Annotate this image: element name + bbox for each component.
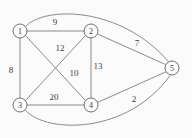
edge-1-5-arc-top [26, 14, 169, 62]
edge-weight-1-3: 8 [9, 65, 14, 75]
edge-weight-4-5: 2 [132, 94, 137, 104]
graph-diagram: 1 2 3 4 5 9 8 10 12 13 7 20 2 [0, 0, 192, 138]
edge-weight-3-4: 20 [50, 92, 60, 102]
edge-weight-2-3: 12 [56, 43, 65, 53]
node-label-3: 3 [18, 101, 22, 110]
node-label-1: 1 [18, 27, 22, 36]
graph-canvas: 1 2 3 4 5 9 8 10 12 13 7 20 2 [0, 0, 192, 138]
edge-weight-2-4: 13 [94, 61, 104, 71]
edge-weight-1-2: 9 [53, 17, 58, 27]
node-label-4: 4 [89, 101, 93, 110]
edge-weight-1-4: 10 [70, 68, 80, 78]
node-label-2: 2 [89, 27, 93, 36]
edge-weight-2-5: 7 [135, 38, 140, 48]
edge-3-5-arc-bottom [26, 76, 171, 126]
edge-2-5 [98, 34, 166, 65]
node-label-5: 5 [170, 64, 174, 73]
